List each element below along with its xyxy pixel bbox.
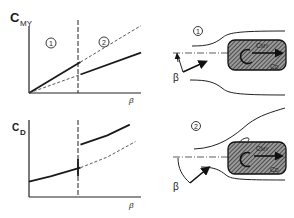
beta-label-2: β [173,181,179,192]
cmy-ylabel: C [10,10,20,25]
cd-series-1 [81,142,136,168]
region-1-label: 1 [49,40,53,47]
flow-direction-arrow-2-icon [190,168,208,183]
moment-label-2: CMY [256,145,269,152]
beta-label: β [173,72,179,83]
regime-2-label: 2 [194,123,198,130]
drag-label-2: CD [270,166,279,173]
cd-series [29,125,135,182]
cd-series-2 [81,125,130,145]
cmy-ylabel-sub: MY [20,19,33,28]
figure: C MY β 1 2 C D β 1 CMY [0,0,294,218]
cmy-chart: C MY β 1 2 [10,10,141,105]
cd-ylabel-sub: D [20,128,26,137]
regime-1-label: 1 [196,28,200,35]
cd-xlabel: β [128,201,134,210]
cd-ylabel: C [12,122,19,133]
flow-diagram-1: 1 CMY CD β [173,27,286,96]
region-2-marker: 2 [99,37,109,47]
beta-arc-2-icon [178,158,190,183]
cmy-series-3 [81,53,142,75]
drag-label: CD [270,63,279,70]
region-2-label: 2 [102,39,106,46]
moment-label: CMY [256,42,269,49]
region-1-marker: 1 [46,38,56,48]
cmy-series [29,26,141,93]
lower-streamline [190,80,285,95]
flow-diagram-2: 2 CMY CD β [173,108,286,192]
cmy-xlabel: β [128,96,134,105]
cd-series-0 [29,168,81,182]
flow-direction-arrow-icon [183,62,205,72]
cd-chart: C D β [12,120,141,210]
beta-ref-line [177,53,183,72]
